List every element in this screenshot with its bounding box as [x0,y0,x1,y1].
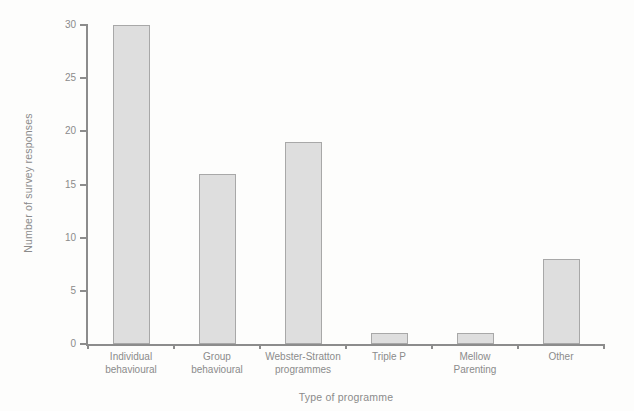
x-tick [431,344,433,349]
bar-other [543,259,580,344]
x-tick [603,344,605,349]
bar-mellow-parenting [457,333,494,344]
x-tick [87,344,89,349]
y-tick-label: 10 [52,232,76,244]
category-label-line: Webster-Stratton [253,350,353,363]
category-label-line: Group [167,350,267,363]
bar-individual-behavioural [113,25,150,344]
x-tick [173,344,175,349]
y-tick-label: 5 [52,285,76,297]
y-tick [80,24,86,26]
bar-webster-stratton-programmes [285,142,322,344]
x-tick [517,344,519,349]
y-axis-title: Number of survey responses [22,88,34,278]
y-tick-label: 0 [52,338,76,350]
y-tick [80,290,86,292]
bar-group-behavioural [199,174,236,344]
y-tick-label: 20 [52,125,76,137]
y-axis-line [86,24,88,346]
category-label-line: Other [511,350,611,363]
category-label-line: Parenting [425,363,525,376]
category-label-line: Individual [81,350,181,363]
category-label-line: programmes [253,363,353,376]
category-label-line: Triple P [339,350,439,363]
bar-chart-figure: Number of survey responses 051015202530I… [0,0,634,411]
category-label-triple-p: Triple P [339,350,439,363]
category-label-line: behavioural [167,363,267,376]
x-tick [345,344,347,349]
x-axis-title: Type of programme [88,391,604,403]
y-tick [80,237,86,239]
category-label-other: Other [511,350,611,363]
y-tick [80,184,86,186]
category-label-webster-stratton-programmes: Webster-Strattonprogrammes [253,350,353,376]
category-label-line: Mellow [425,350,525,363]
y-tick-label: 25 [52,72,76,84]
y-tick-label: 15 [52,179,76,191]
y-tick [80,343,86,345]
bar-triple-p [371,333,408,344]
category-label-individual-behavioural: Individualbehavioural [81,350,181,376]
x-tick [259,344,261,349]
y-tick [80,77,86,79]
category-label-group-behavioural: Groupbehavioural [167,350,267,376]
category-label-line: behavioural [81,363,181,376]
y-tick-label: 30 [52,19,76,31]
category-label-mellow-parenting: MellowParenting [425,350,525,376]
y-tick [80,130,86,132]
